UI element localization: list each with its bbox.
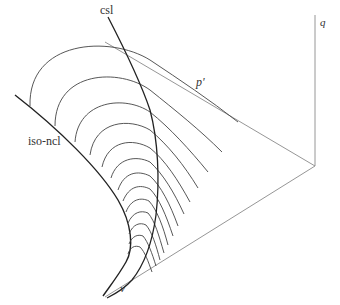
v-axis xyxy=(105,166,315,297)
arc xyxy=(30,46,238,122)
p-prime-axis xyxy=(105,42,315,166)
v-axis-label: v xyxy=(120,282,125,294)
arc xyxy=(102,142,190,202)
csl-curve xyxy=(107,17,158,298)
arc xyxy=(75,103,208,172)
q-axis-label: q xyxy=(320,16,326,28)
critical-state-diagram: csl iso-ncl p' q v xyxy=(0,0,340,305)
axes xyxy=(105,15,315,297)
p-prime-axis-label: p' xyxy=(195,75,205,89)
iso-ncl-label: iso-ncl xyxy=(28,134,61,148)
arc xyxy=(111,159,184,214)
boundary-arcs xyxy=(30,46,238,272)
csl-label: csl xyxy=(100,3,114,17)
